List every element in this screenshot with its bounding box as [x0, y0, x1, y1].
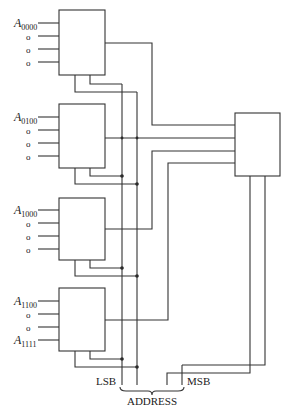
- svg-text:o: o: [26, 245, 31, 255]
- input-mux-block-1: A0100 o o o: [13, 104, 235, 186]
- address-brace: [120, 387, 184, 395]
- input-label-3-last: A1111: [13, 333, 36, 349]
- address-label: ADDRESS: [127, 395, 177, 407]
- lsb-label: LSB: [96, 375, 116, 387]
- svg-text:o: o: [26, 58, 31, 68]
- input-label-1: A0100: [13, 110, 37, 126]
- input-label-0: A0000: [13, 16, 37, 32]
- msb-label: MSB: [187, 375, 210, 387]
- svg-text:o: o: [26, 126, 31, 136]
- svg-text:o: o: [26, 310, 31, 320]
- input-mux-block-0: A0000 o o o: [13, 10, 235, 125]
- svg-text:o: o: [26, 232, 31, 242]
- svg-text:o: o: [26, 323, 31, 333]
- svg-text:o: o: [26, 32, 31, 42]
- input-label-3: A1100: [13, 294, 37, 310]
- lsb-select-lines: [122, 84, 137, 385]
- output-mux-block: [167, 113, 280, 385]
- svg-text:o: o: [26, 139, 31, 149]
- address-bus-labels: LSB MSB ADDRESS: [96, 375, 210, 407]
- svg-text:o: o: [26, 45, 31, 55]
- input-mux-block-2: A1000 o o o: [13, 151, 235, 278]
- svg-text:o: o: [26, 219, 31, 229]
- input-mux-block-3: A1100 o o A1111: [13, 163, 235, 369]
- input-label-2: A1000: [13, 203, 37, 219]
- svg-text:o: o: [26, 152, 31, 162]
- mux-diagram: A0000 o o o A0100 o o o A1000: [0, 0, 288, 412]
